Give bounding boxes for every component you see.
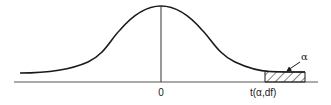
critical-value-label: t(α,df): [250, 87, 276, 98]
t-distribution-diagram: 0 t(α,df) α: [0, 0, 331, 105]
center-label: 0: [158, 87, 164, 98]
alpha-label: α: [301, 51, 308, 62]
density-curve: [20, 6, 305, 73]
rejection-region: [265, 72, 305, 83]
